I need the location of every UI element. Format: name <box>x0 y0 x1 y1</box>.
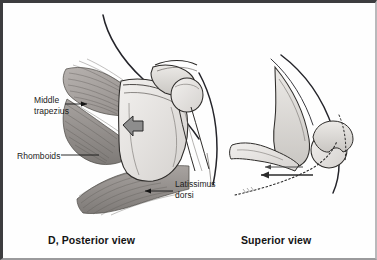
retraction-arrow-secondary <box>265 164 303 169</box>
middle-trapezius-muscle <box>63 67 149 115</box>
glenoid <box>313 121 353 152</box>
humeral-head <box>171 78 203 112</box>
latissimus-fibers <box>79 168 179 215</box>
clavicle-bone-ridge <box>237 150 283 160</box>
label-rhomboids: Rhomboids <box>17 151 60 162</box>
scapular-spine-lower <box>124 92 175 103</box>
acromion <box>151 65 195 96</box>
humeral-head-superior <box>311 132 347 168</box>
thorax-inner-outline <box>271 59 313 125</box>
figure-frame: Middle trapezius Rhomboids Latissimus do… <box>0 0 377 260</box>
humerus-shaft-midline <box>185 113 202 171</box>
dotted-soft-tissue-outline-upper <box>339 115 346 161</box>
figure-inner: Middle trapezius Rhomboids Latissimus do… <box>3 3 375 258</box>
arm-outline <box>199 73 217 185</box>
humeral-head-contour <box>175 84 199 89</box>
rhomboid-fibers <box>65 101 121 163</box>
scapula-blade-ridge <box>279 79 305 141</box>
label-middle-trapezius: Middle trapezius <box>34 95 69 116</box>
trapezius-fibers <box>68 59 129 114</box>
dotted-soft-tissue-outline <box>235 141 337 195</box>
caption-superior-view: Superior view <box>241 234 311 246</box>
scapula-bone <box>119 79 188 181</box>
clavicle-lower-edge <box>157 67 197 71</box>
leader-latissimus-dorsi <box>145 188 173 193</box>
caption-posterior-view: D, Posterior view <box>48 234 135 246</box>
scapula-blade <box>274 67 310 168</box>
thorax-outline <box>281 55 339 193</box>
rhomboid-muscle <box>63 99 135 165</box>
scapula-motion-arrow <box>123 116 143 136</box>
latissimus-dorsi-muscle <box>77 166 189 214</box>
label-latissimus-dorsi: Latissimus dorsi <box>175 179 216 200</box>
humerus-shaft-lateral <box>191 107 209 169</box>
scapular-spine <box>123 84 173 95</box>
clavicle-bone <box>230 143 299 171</box>
hatch-marks <box>243 187 254 193</box>
anatomy-illustration <box>3 3 375 258</box>
humerus-shaft <box>179 109 195 171</box>
neck-outline <box>103 15 199 139</box>
scapula-medial-border <box>129 103 139 175</box>
clavicle <box>155 61 197 66</box>
superior-view-group <box>230 55 353 195</box>
scapula-lateral-border <box>171 107 177 167</box>
retraction-arrow <box>261 171 313 178</box>
